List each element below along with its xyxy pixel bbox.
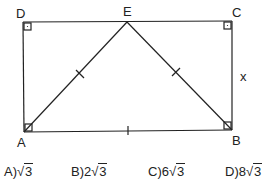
choice-coef: 2 [84, 164, 91, 179]
point-label-A: A [17, 136, 26, 149]
choice-b[interactable]: B)2√3 [71, 163, 107, 181]
tick-mark-AE [76, 70, 84, 78]
sqrt-icon: √3 [17, 163, 33, 181]
answer-choices: A)√3 B)2√3 C)6√3 D)8√3 [0, 163, 269, 183]
choice-letter: C) [148, 164, 162, 179]
segment-EB [127, 22, 232, 130]
side-label-x: x [240, 70, 247, 83]
sqrt-icon: √3 [246, 163, 262, 181]
side-DA [23, 22, 24, 132]
radicand: 3 [176, 163, 185, 179]
sqrt-icon: √3 [91, 163, 107, 181]
right-angle-dot-C [227, 25, 228, 26]
choice-letter: D) [225, 164, 239, 179]
segment-AE [24, 22, 127, 132]
sqrt-icon: √3 [169, 163, 185, 181]
choice-letter: B) [71, 164, 84, 179]
choice-letter: A) [4, 164, 17, 179]
point-label-E: E [123, 5, 132, 18]
radicand: 3 [98, 163, 107, 179]
right-angle-dot-D [27, 26, 28, 27]
choice-coef: 8 [239, 164, 246, 179]
choice-a[interactable]: A)√3 [4, 163, 33, 181]
choice-coef: 6 [162, 164, 169, 179]
geometry-figure [0, 0, 269, 160]
choice-c[interactable]: C)6√3 [148, 163, 185, 181]
point-label-B: B [232, 134, 241, 147]
point-label-D: D [16, 7, 25, 20]
point-label-C: C [232, 6, 241, 19]
radicand: 3 [253, 163, 262, 179]
choice-d[interactable]: D)8√3 [225, 163, 262, 181]
radicand: 3 [24, 163, 33, 179]
